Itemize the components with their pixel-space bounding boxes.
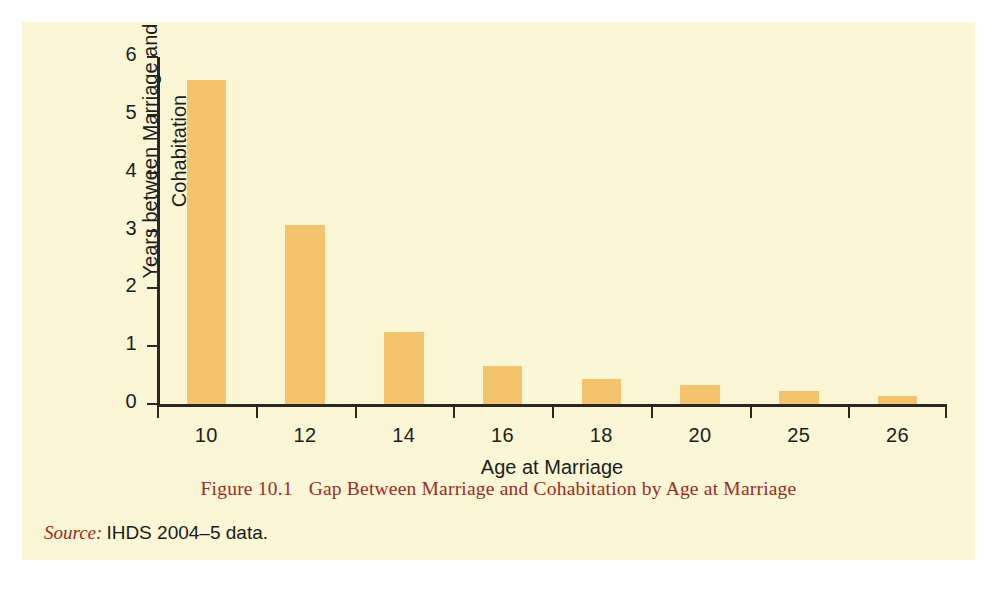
bar [285,225,325,404]
y-axis-tick-label: 2 [97,274,137,297]
x-axis-tick-label: 18 [561,424,641,447]
bar [779,391,819,404]
figure-container: 0123456 1012141618202526 Age at Marriage… [0,0,1007,589]
x-axis-tick [256,407,258,418]
bar [680,385,720,404]
figure-caption: Figure 10.1Gap Between Marriage and Coha… [22,478,975,500]
bar [582,379,622,404]
x-axis-tick [355,407,357,418]
x-axis-tick-label: 14 [364,424,444,447]
x-axis-tick-label: 20 [660,424,740,447]
x-axis-title: Age at Marriage [157,456,947,479]
x-axis-tick [157,407,159,418]
bar [384,332,424,404]
x-axis-tick [453,407,455,418]
chart-plot-area: 0123456 1012141618202526 Age at Marriage… [135,52,945,437]
y-axis-tick-label: 6 [97,43,137,66]
x-axis-tick [651,407,653,418]
figure-source-text: IHDS 2004–5 data. [106,522,268,543]
y-axis-tick-label: 4 [97,159,137,182]
figure-panel: 0123456 1012141618202526 Age at Marriage… [22,22,975,560]
x-axis-tick [750,407,752,418]
y-axis-tick-label: 1 [97,332,137,355]
y-axis-title-line-1: Years between Marriage and [136,1,165,301]
x-axis-tick [945,407,947,418]
bar [878,396,918,404]
x-axis-tick-label: 25 [759,424,839,447]
y-axis-title: Years between Marriage and Cohabitation [136,1,194,301]
y-axis-tick [147,403,158,405]
figure-source-label: Source: [44,522,102,543]
x-axis-tick [552,407,554,418]
y-axis-tick-label: 5 [97,101,137,124]
figure-caption-text: Gap Between Marriage and Cohabitation by… [309,478,797,499]
y-axis-tick [147,345,158,347]
y-axis-tick-label: 0 [97,390,137,413]
figure-caption-number: Figure 10.1 [201,478,293,499]
x-axis-tick-label: 16 [463,424,543,447]
bar [483,366,523,404]
x-axis-tick-label: 10 [166,424,246,447]
y-axis-tick-label: 3 [97,217,137,240]
x-axis-tick-label: 26 [858,424,938,447]
figure-source: Source:IHDS 2004–5 data. [44,522,944,544]
y-axis-title-line-2: Cohabitation [165,1,194,301]
y-axis-tick-labels: 0123456 [83,52,137,412]
x-axis-tick-label: 12 [265,424,345,447]
x-axis-tick [848,407,850,418]
